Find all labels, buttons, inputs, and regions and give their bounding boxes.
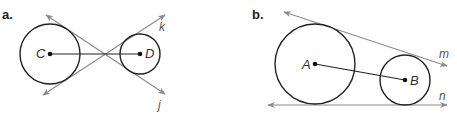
part-a-label: a. [2,7,13,22]
point-label-a: A [301,57,311,72]
tangent-circles-figure: a. C D k j b. A B m n [0,0,457,118]
point-label-d: D [145,46,154,61]
line-label-m: m [439,47,449,61]
point-label-c: C [36,46,46,61]
part-b-label: b. [252,7,264,22]
line-label-n: n [439,89,446,103]
center-point-c [48,52,53,57]
center-point-a [313,62,318,67]
line-label-k: k [159,20,166,34]
center-point-b [403,78,408,83]
center-point-d [138,52,143,57]
diagram-b: b. A B m n [252,7,449,105]
diagram-a: a. C D k j [2,7,166,112]
point-label-b: B [410,73,419,88]
line-label-j: j [156,98,161,112]
segment-ab [315,64,405,80]
